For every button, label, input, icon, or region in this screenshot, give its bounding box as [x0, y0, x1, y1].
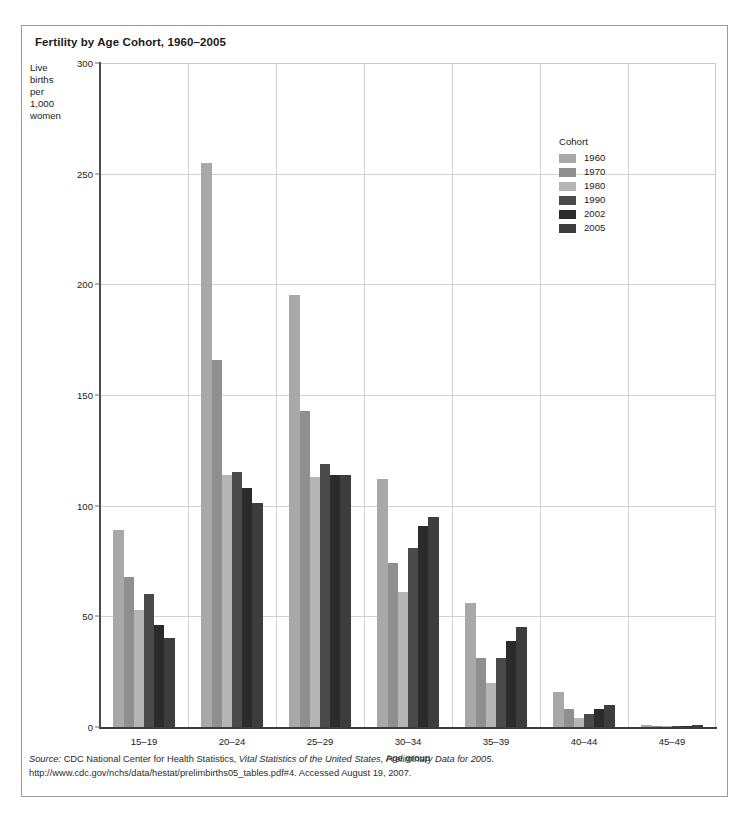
bar: [496, 658, 506, 727]
bar: [574, 718, 584, 727]
legend-swatch: [559, 168, 576, 177]
bar: [377, 479, 387, 727]
source-tail: .: [491, 754, 494, 764]
bar: [300, 411, 310, 728]
bar-group: [276, 63, 364, 727]
bar: [486, 683, 496, 727]
bar: [320, 464, 330, 727]
legend-label: 1960: [584, 153, 605, 163]
bar: [594, 709, 604, 727]
bar: [222, 475, 232, 727]
bar-group: [188, 63, 276, 727]
source-label: Source:: [29, 754, 61, 764]
bar: [584, 714, 594, 727]
bar: [252, 503, 262, 727]
bar: [154, 625, 164, 727]
legend-label: 1970: [584, 167, 605, 177]
bar-group: [628, 63, 716, 727]
x-axis-tick-label: 45–49: [659, 736, 686, 747]
y-axis-caption: Livebirthsper1,000women: [30, 62, 78, 122]
bar: [604, 705, 614, 727]
x-axis-tick-label: 40–44: [571, 736, 598, 747]
x-axis-tick-label: 15–19: [131, 736, 158, 747]
y-axis-tick-label: 0: [88, 722, 93, 733]
bar-group: [100, 63, 188, 727]
legend-item: 1970: [559, 165, 605, 179]
y-axis-tick-mark: [95, 63, 100, 64]
bar: [164, 638, 174, 727]
figure-frame: Fertility by Age Cohort, 1960–2005 Liveb…: [21, 25, 728, 797]
bar: [144, 594, 154, 727]
legend-label: 1980: [584, 181, 605, 191]
bar: [408, 548, 418, 727]
bar-group: [452, 63, 540, 727]
bar: [201, 163, 211, 727]
legend-item: 2002: [559, 207, 605, 221]
bar: [289, 295, 299, 727]
bar: [330, 475, 340, 727]
legend-swatch: [559, 210, 576, 219]
y-axis-tick-mark: [95, 727, 100, 728]
bar: [340, 475, 350, 727]
bar: [516, 627, 526, 727]
bar: [428, 517, 438, 727]
legend-label: 2005: [584, 223, 605, 233]
bar: [506, 641, 516, 727]
bar: [398, 592, 408, 727]
y-axis-tick-label: 200: [77, 279, 93, 290]
bar: [388, 563, 398, 727]
bar: [124, 577, 134, 728]
legend-rows: 196019701980199020022005: [559, 151, 605, 235]
y-axis-caption-line: women: [30, 110, 78, 122]
y-axis-tick-label: 250: [77, 168, 93, 179]
y-axis-caption-line: births: [30, 74, 78, 86]
legend-label: 2002: [584, 209, 605, 219]
bar: [310, 477, 320, 727]
legend-swatch: [559, 154, 576, 163]
legend-item: 2005: [559, 221, 605, 235]
x-axis-line: [99, 727, 717, 729]
plot-area: 050100150200250300 15–1920–2425–2930–343…: [100, 63, 716, 727]
y-axis-tick-mark: [95, 173, 100, 174]
x-axis-tick-label: 30–34: [395, 736, 422, 747]
x-axis-tick-label: 25–29: [307, 736, 334, 747]
source-url: http://www.cdc.gov/nchs/data/hestat/prel…: [29, 767, 689, 781]
source-note: Source: CDC National Center for Health S…: [29, 753, 689, 780]
y-axis-caption-line: per: [30, 86, 78, 98]
y-axis-tick-label: 300: [77, 58, 93, 69]
y-axis-tick-mark: [95, 284, 100, 285]
plot-right-edge: [715, 63, 716, 727]
legend-title: Cohort: [559, 136, 605, 147]
y-axis-tick-label: 50: [82, 611, 93, 622]
y-axis-tick-mark: [95, 395, 100, 396]
legend-label: 1990: [584, 195, 605, 205]
x-axis-tick-label: 35–39: [483, 736, 510, 747]
bar: [418, 526, 428, 727]
x-axis-tick-label: 20–24: [219, 736, 246, 747]
y-axis-tick-label: 150: [77, 390, 93, 401]
bar: [564, 709, 574, 727]
legend-swatch: [559, 182, 576, 191]
bar: [465, 603, 475, 727]
legend: Cohort 196019701980199020022005: [559, 136, 605, 235]
bar: [113, 530, 123, 727]
legend-item: 1980: [559, 179, 605, 193]
legend-item: 1990: [559, 193, 605, 207]
legend-item: 1960: [559, 151, 605, 165]
bar: [134, 610, 144, 727]
y-axis-caption-line: Live: [30, 62, 78, 74]
legend-swatch: [559, 224, 576, 233]
source-publication: Vital Statistics of the United States, P…: [239, 754, 492, 764]
bar: [242, 488, 252, 727]
y-axis-tick-label: 100: [77, 500, 93, 511]
bar: [553, 692, 563, 727]
bar: [232, 472, 242, 727]
bar: [212, 360, 222, 727]
page-title: Fertility by Age Cohort, 1960–2005: [35, 36, 226, 48]
bar: [476, 658, 486, 727]
legend-swatch: [559, 196, 576, 205]
y-axis-caption-line: 1,000: [30, 98, 78, 110]
y-axis-tick-mark: [95, 616, 100, 617]
y-axis-tick-mark: [95, 505, 100, 506]
bar-group: [364, 63, 452, 727]
